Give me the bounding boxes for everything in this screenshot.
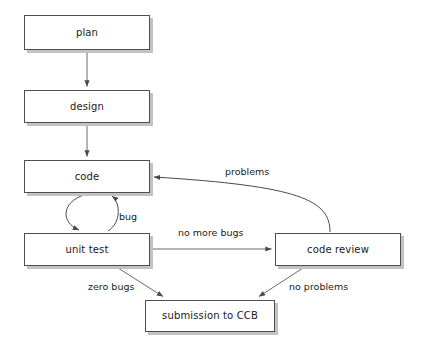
flowchart-canvas: plan design code unit test code review s… xyxy=(0,0,424,359)
node-submission-to-ccb-label: submission to CCB xyxy=(162,311,258,321)
edge-label-problems: problems xyxy=(225,167,269,177)
node-unit-test[interactable]: unit test xyxy=(24,233,150,266)
node-plan[interactable]: plan xyxy=(24,15,150,50)
node-code-label: code xyxy=(75,172,100,182)
node-design[interactable]: design xyxy=(24,90,150,123)
node-code[interactable]: code xyxy=(24,160,150,193)
node-code-review-label: code review xyxy=(307,245,369,255)
edge-code-to-unittest-bug-loop xyxy=(66,195,84,230)
node-submission-to-ccb[interactable]: submission to CCB xyxy=(145,300,275,332)
node-plan-label: plan xyxy=(76,28,98,38)
node-code-review[interactable]: code review xyxy=(275,233,401,266)
edge-unittest-to-code-bug-loop xyxy=(108,196,118,231)
edge-label-zero-bugs: zero bugs xyxy=(88,282,134,292)
edge-label-no-problems: no problems xyxy=(289,282,348,292)
node-design-label: design xyxy=(70,102,104,112)
edge-label-bug: bug xyxy=(119,212,137,222)
edge-label-no-more-bugs: no more bugs xyxy=(178,228,244,238)
node-unit-test-label: unit test xyxy=(65,245,108,255)
edge-codereview-to-code-problems xyxy=(154,177,330,232)
